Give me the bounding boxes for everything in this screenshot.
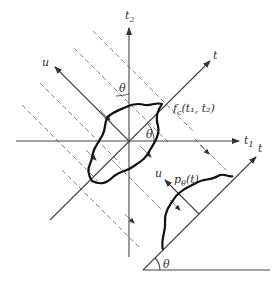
theta-arc-bottom xyxy=(155,258,160,270)
t-axis-label: t xyxy=(213,50,217,61)
theta-bottom-label: θ xyxy=(163,259,170,270)
projection-rays xyxy=(22,31,226,247)
t1-axis-label: t1 xyxy=(244,135,254,149)
lower-t-axis-label: t xyxy=(258,143,262,154)
projection-label: pθ(t) xyxy=(174,174,199,188)
theta-center-label: θ xyxy=(146,129,153,140)
t2-axis-label: t2 xyxy=(125,10,135,24)
u-axis xyxy=(55,67,129,141)
u-axis-label: u xyxy=(42,57,49,68)
projection-diagram xyxy=(0,0,277,286)
theta-top-label: θ xyxy=(119,83,126,94)
axes xyxy=(16,28,239,257)
function-label: fc(t₁, t₂) xyxy=(173,103,215,117)
lower-u-axis-label: u xyxy=(155,168,162,179)
